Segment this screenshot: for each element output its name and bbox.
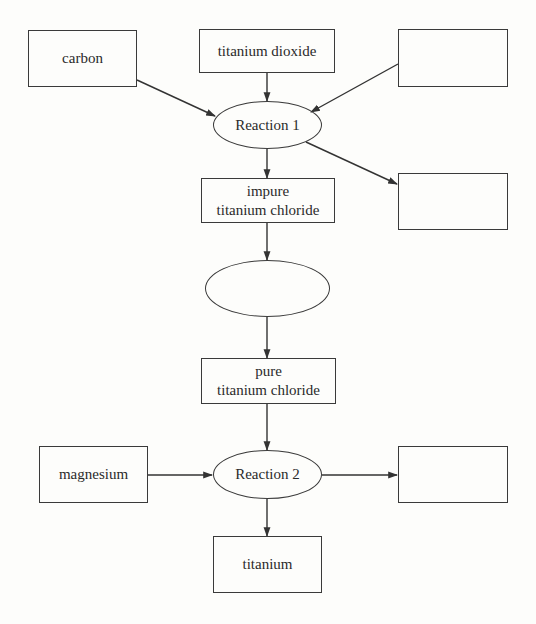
magnesium-box: magnesium [39,446,148,503]
blank-input-box[interactable] [398,29,508,87]
titanium-box: titanium [213,536,322,593]
carbon-label: carbon [62,49,103,68]
blank-output1-box[interactable] [398,173,508,230]
titanium-label: titanium [243,555,293,574]
pure-titanium-chloride-box: pure titanium chloride [201,358,336,404]
reaction1-ellipse: Reaction 1 [213,101,322,149]
titanium-extraction-flowchart: carbon titanium dioxide Reaction 1 impur… [0,0,536,624]
titanium-dioxide-label: titanium dioxide [218,42,317,61]
blank-process-ellipse[interactable] [205,260,330,317]
carbon-box: carbon [28,30,137,87]
impure-titanium-chloride-label: impure titanium chloride [217,182,320,220]
reaction1-label: Reaction 1 [235,117,300,134]
magnesium-label: magnesium [59,465,128,484]
reaction2-label: Reaction 2 [235,466,300,483]
titanium-dioxide-box: titanium dioxide [199,29,335,73]
reaction2-ellipse: Reaction 2 [213,450,322,499]
blank-output2-box[interactable] [398,446,508,503]
pure-titanium-chloride-label: pure titanium chloride [217,362,320,400]
impure-titanium-chloride-box: impure titanium chloride [201,178,335,223]
arrow-carbon-to-reaction1 [137,80,215,116]
